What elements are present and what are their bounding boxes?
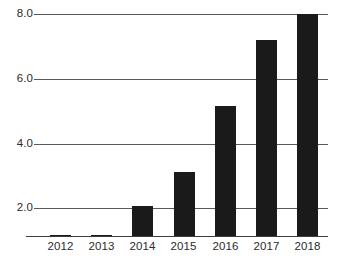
- ytick-label-8: 8.0: [0, 8, 33, 20]
- xtick-label-2014: 2014: [122, 241, 163, 253]
- ytick-label-4: 4.0: [0, 138, 33, 150]
- xtick-label-2015: 2015: [163, 241, 204, 253]
- ytick-label-6: 6.0: [0, 73, 33, 85]
- x-axis-labels: 2012 2013 2014 2015 2016 2017 2018: [40, 0, 328, 264]
- xtick-label-2013: 2013: [81, 241, 122, 253]
- ytick-label-2: 2.0: [0, 202, 33, 214]
- xtick-label-2018: 2018: [287, 241, 328, 253]
- xtick-label-2017: 2017: [246, 241, 287, 253]
- xtick-label-2012: 2012: [40, 241, 81, 253]
- xtick-label-2016: 2016: [205, 241, 246, 253]
- bar-chart: 8.0 6.0 4.0 2.0 2012 2013 2014 2015 2016…: [0, 0, 338, 264]
